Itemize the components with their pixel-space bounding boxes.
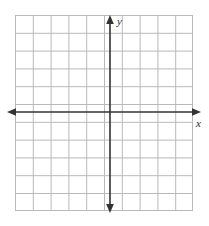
x-axis-right-arrow-icon [192, 108, 201, 116]
coordinate-plane-figure: y x [0, 0, 209, 226]
x-axis-left-arrow-icon [7, 108, 16, 116]
y-axis-label: y [116, 15, 122, 27]
coordinate-plane-svg: y x [0, 0, 209, 226]
x-axis-label: x [195, 117, 201, 129]
